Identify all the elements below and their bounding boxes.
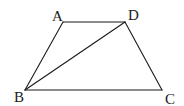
edge-BA [25, 22, 63, 90]
trapezoid-diagram: A D B C [0, 0, 184, 106]
vertex-label-a: A [52, 8, 63, 24]
vertex-label-b: B [14, 89, 24, 105]
diagonal-BD [25, 22, 125, 90]
vertex-label-d: D [128, 7, 139, 23]
diagram-canvas: A D B C [0, 0, 184, 106]
edge-DC [125, 22, 162, 90]
vertex-label-c: C [165, 91, 175, 106]
